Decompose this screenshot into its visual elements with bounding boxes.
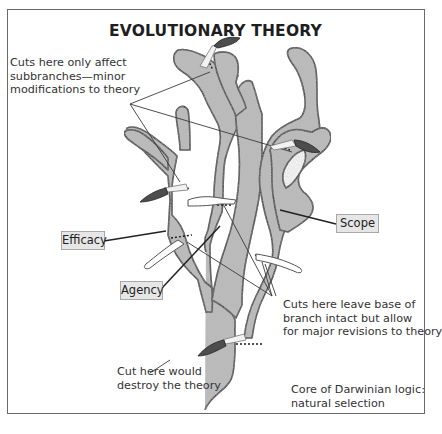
branch-note-line-2: branch intact but allow	[283, 312, 442, 326]
label-scope: Scope	[336, 214, 379, 233]
knife-icon-middle-open	[188, 197, 236, 206]
tree-shape	[124, 48, 331, 410]
trunk-note: Cut here would destroy the theory	[117, 365, 221, 392]
subbranch-note: Cuts here only affect subbranches—minor …	[10, 56, 140, 97]
branch-note: Cuts here leave base of branch intact bu…	[283, 298, 442, 339]
core-note-line-1: Core of Darwinian logic:	[291, 383, 425, 397]
trunk-note-line-1: Cut here would	[117, 365, 221, 379]
trunk-note-line-2: destroy the theory	[117, 379, 221, 393]
branch-note-line-3: for major revisions to theory	[283, 325, 442, 339]
core-note-line-2: natural selection	[291, 397, 425, 411]
core-note: Core of Darwinian logic: natural selecti…	[291, 383, 425, 410]
subbranch-note-line-3: modifications to theory	[10, 83, 140, 97]
subbranch-note-line-2: subbranches—minor	[10, 70, 140, 84]
label-agency: Agency	[120, 281, 163, 300]
branch-note-line-1: Cuts here leave base of	[283, 298, 442, 312]
label-efficacy: Efficacy	[61, 231, 105, 250]
subbranch-note-line-1: Cuts here only affect	[10, 56, 140, 70]
knife-icon-left	[140, 184, 188, 202]
